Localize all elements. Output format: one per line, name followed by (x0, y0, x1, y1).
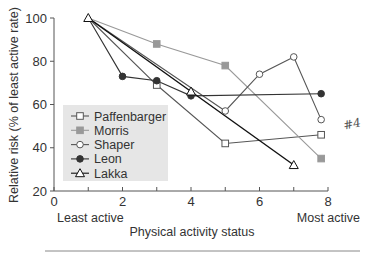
x-tick-label: 6 (256, 194, 263, 209)
x-tick-label: 8 (324, 194, 331, 209)
triangle-marker-icon (84, 14, 93, 22)
x-tick-label: 4 (187, 194, 194, 209)
relative-risk-chart: PaffenbargerMorrisShaperLeonLakka 204060… (0, 0, 380, 254)
filled-circle-marker-icon (318, 90, 325, 97)
y-tick-label: 40 (33, 140, 47, 155)
x-axis-title: Physical activity status (129, 225, 254, 239)
y-axis-title: Relative risk (% of least active rate) (7, 7, 21, 203)
legend-label: Leon (94, 152, 122, 166)
y-tick-label: 100 (25, 11, 47, 26)
x-tick-label: 2 (119, 194, 126, 209)
legend-label: Lakka (94, 167, 127, 181)
square-marker-icon (318, 131, 325, 138)
triangle-marker-icon (289, 161, 298, 169)
square-marker-icon (77, 113, 84, 120)
series-line-shaper (88, 18, 321, 120)
triangle-marker-icon (187, 87, 196, 95)
filled-circle-marker-icon (77, 156, 84, 163)
y-tick-label: 80 (33, 54, 47, 69)
legend-label: Morris (94, 124, 129, 138)
filled-circle-marker-icon (119, 73, 126, 80)
filled-circle-marker-icon (153, 77, 160, 84)
series-markers-morris (153, 41, 324, 162)
legend-label: Paffenbarger (94, 110, 166, 124)
legend: PaffenbargerMorrisShaperLeonLakka (63, 105, 168, 181)
filled-square-marker-icon (77, 127, 84, 134)
x-end-label-left: Least active (57, 211, 124, 225)
circle-marker-icon (77, 141, 84, 148)
x-end-label-right: Most active (297, 211, 360, 225)
circle-marker-icon (290, 54, 297, 61)
y-tick-label: 60 (33, 97, 47, 112)
x-tick-label: 0 (50, 194, 57, 209)
axis-labels: 2040608010002468Least activeMost activeP… (7, 7, 362, 239)
y-tick-label: 20 (33, 184, 47, 199)
filled-square-marker-icon (153, 41, 160, 48)
circle-marker-icon (318, 116, 325, 123)
circle-marker-icon (256, 71, 263, 78)
circle-marker-icon (222, 108, 229, 115)
square-marker-icon (222, 140, 229, 147)
series-line-leon (88, 18, 321, 96)
legend-label: Shaper (94, 138, 134, 152)
handwritten-annotation: #4 (342, 115, 362, 132)
filled-square-marker-icon (222, 62, 229, 69)
filled-square-marker-icon (318, 155, 325, 162)
